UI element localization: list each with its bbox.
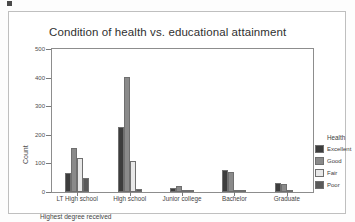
bar [188,190,194,192]
y-axis-tick [46,135,51,136]
legend-swatch-icon [315,157,324,165]
bar [136,189,142,192]
legend-item[interactable]: Fair [315,168,355,178]
bar [83,178,89,192]
legend-title: Health [327,134,355,141]
legend-items: ExcellentGoodFairPoor [315,144,355,190]
legend: Health ExcellentGoodFairPoor [315,134,355,192]
y-axis-tick [46,106,51,107]
legend-swatch-icon [315,181,324,189]
y-axis-tick-label: 400 [25,75,45,81]
chart-screenshot: Condition of health vs. educational atta… [0,0,355,222]
x-axis-category-label: Graduate [274,195,300,202]
x-axis-category-label: High school [113,195,146,202]
legend-item[interactable]: Excellent [315,144,355,154]
y-axis-tick-label: 100 [25,160,45,166]
legend-item[interactable]: Poor [315,180,355,190]
y-axis-tick [46,49,51,50]
bar [240,190,246,192]
legend-item-label: Poor [327,182,340,188]
chart-frame: Condition of health vs. educational atta… [8,11,346,214]
chart-title: Condition of health vs. educational atta… [49,26,279,38]
bar [130,161,136,192]
x-axis-category-label: LT High school [56,195,97,202]
y-axis-tick [46,192,51,193]
y-axis-tick-label: 500 [25,46,45,52]
legend-item-label: Excellent [327,146,351,152]
stray-mark [7,1,12,6]
legend-item-label: Fair [327,170,337,176]
legend-item-label: Good [327,158,342,164]
legend-item[interactable]: Good [315,156,355,166]
y-axis-tick-label: 0 [25,189,45,195]
legend-swatch-icon [315,169,324,177]
plot-right-border [313,48,314,193]
plot-area: 0100200300400500 [51,49,313,192]
x-axis-category-label: Bachelor [222,195,247,202]
y-axis-tick-label: 300 [25,103,45,109]
y-axis-tick [46,78,51,79]
legend-swatch-icon [315,145,324,153]
y-axis-tick [46,163,51,164]
x-axis-category-label: Junior college [163,195,202,202]
x-axis-title: Highest degree received [40,213,111,220]
y-axis-tick-label: 200 [25,132,45,138]
